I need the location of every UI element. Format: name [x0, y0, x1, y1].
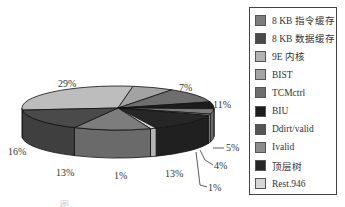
- legend-label: 8 KB 指令缓存: [272, 13, 335, 27]
- legend-label: Rest.946: [272, 179, 306, 189]
- legend-item: 8 KB 指令缓存: [255, 13, 335, 27]
- legend-item: 9E 内核: [255, 49, 305, 63]
- legend-label: BIU: [272, 106, 288, 116]
- legend-label: Ivalid: [272, 142, 294, 152]
- label-11: 11%: [213, 99, 231, 110]
- legend-swatch-icon: [255, 178, 266, 189]
- legend-swatch-icon: [255, 106, 266, 117]
- legend-swatch-icon: [255, 87, 266, 98]
- label-1-center: 1%: [114, 170, 127, 181]
- legend-swatch-icon: [255, 160, 266, 171]
- legend-item: 8 KB 数据缓存: [255, 31, 335, 45]
- leader-line: [196, 152, 207, 187]
- legend-item: 顶层树: [255, 159, 302, 173]
- legend-swatch-icon: [255, 51, 266, 62]
- label-1-right: 1%: [208, 182, 221, 193]
- leader-line: [200, 150, 213, 165]
- legend-swatch-icon: [255, 69, 266, 80]
- figure-caption: 图: [60, 198, 69, 207]
- label-13-right: 13%: [165, 168, 183, 179]
- legend-item: BIU: [255, 104, 288, 118]
- legend-label: 顶层树: [272, 159, 302, 173]
- legend-item: BIST: [255, 68, 293, 82]
- pie-slice-side: [151, 128, 157, 157]
- legend-swatch-icon: [255, 15, 266, 26]
- legend-label: TCMctrl: [272, 88, 305, 98]
- label-5: 5%: [226, 142, 239, 153]
- legend-label: 9E 内核: [272, 49, 305, 63]
- legend: 8 KB 指令缓存8 KB 数据缓存9E 内核BISTTCMctrlBIUDdi…: [249, 7, 337, 195]
- legend-item: Ddirt/valid: [255, 122, 314, 136]
- legend-label: Ddirt/valid: [272, 124, 314, 134]
- legend-swatch-icon: [255, 142, 266, 153]
- legend-label: BIST: [272, 70, 293, 80]
- pie-slice: [22, 86, 133, 110]
- label-13-left: 13%: [56, 167, 74, 178]
- pie-slice-side: [74, 128, 150, 158]
- legend-item: TCMctrl: [255, 86, 305, 100]
- label-4: 4%: [214, 160, 227, 171]
- legend-item: Ivalid: [255, 140, 294, 154]
- label-16: 16%: [8, 146, 26, 157]
- legend-swatch-icon: [255, 124, 266, 135]
- legend-swatch-icon: [255, 33, 266, 44]
- label-29: 29%: [58, 78, 76, 89]
- legend-item: Rest.946: [255, 177, 306, 191]
- legend-label: 8 KB 数据缓存: [272, 31, 335, 45]
- label-7: 7%: [179, 82, 192, 93]
